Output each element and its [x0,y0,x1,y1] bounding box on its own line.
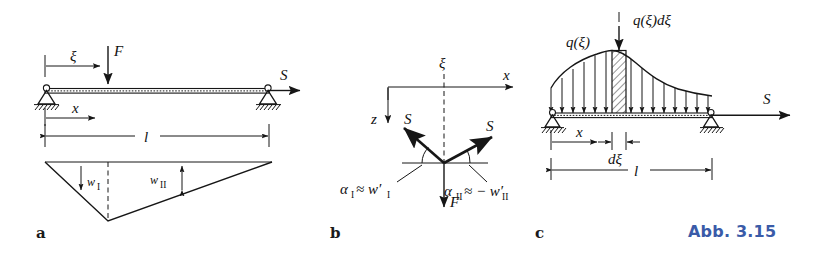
panel-letter-b: b [330,224,341,242]
panel-b-alpha-left-symbol: α [340,181,349,197]
panel-b-alpha-left-relation-subscript: I [387,190,390,200]
panel-b-alpha-left-subscript: I [351,190,354,200]
panel-b-label-axial-right: S [486,118,494,134]
panel-a-deflection-left-subscript: I [97,182,100,192]
panel-b-label-z: z [370,111,377,127]
panel-c-load-element-strip [612,51,626,114]
panel-b-label-alpha-left: α I ≈ w′ I [340,181,390,200]
panel-b-leader-left [397,165,422,182]
panel-a-label-deflection-right: w II [150,173,166,190]
panel-c-label-x: x [575,124,583,140]
panel-a-deflection-left-symbol: w [87,175,95,189]
panel-c-label-length: l [634,163,638,179]
panel-a-label-x: x [71,100,79,116]
panel-a-deflection-diagram [45,162,272,221]
panel-c-dxi-dimension [598,132,640,150]
panel-a-deflection-right-subscript: II [160,180,166,190]
panel-a-label-axial: S [280,67,288,83]
panel-a-drawing [34,46,300,221]
panel-letter-c: c [535,224,544,242]
panel-b-angle-arc-right [467,150,470,163]
panel-a-beam [45,89,269,94]
panel-c-load-arrows [551,52,708,114]
panel-a-deflection-right-symbol: w [150,173,158,187]
panel-b-x-axis [388,87,513,100]
panel-a-label-length: l [144,129,148,145]
panel-b-leader-right [469,165,487,182]
panel-c-label-dxi: dξ [608,151,623,167]
panel-a-length-dimension [45,124,269,147]
panel-b-axial-vector-left [404,128,444,163]
panel-c-x-axis-arrow [551,130,597,150]
figure-abb-3-15: ξ F S x l w I w II ξ x z S S F α I ≈ w′ … [0,0,820,267]
panel-c-label-load: q(ξ) [566,34,590,51]
panel-a-label-deflection-left: w I [87,175,100,192]
panel-b-alpha-right-symbol: α [444,183,453,199]
panel-c-beam [551,113,712,118]
panel-b-axial-vector-right [444,137,492,163]
panel-c-label-element-load: q(ξ)dξ [633,12,671,29]
panel-a-label-xi: ξ [70,48,77,64]
figure-caption: Abb. 3.15 [688,222,776,241]
panel-b-alpha-left-relation: ≈ w′ [356,181,382,197]
panel-b-label-axial-left: S [404,111,412,127]
panel-b-alpha-right-subscript: II [456,192,462,202]
panel-b-label-x: x [502,67,510,83]
panel-c-length-dimension [551,158,712,180]
panel-a-label-force: F [113,43,124,59]
panel-b-label-xi: ξ [439,55,446,71]
panel-a-x-axis-arrow [45,108,95,126]
panel-c-label-axial: S [763,91,771,107]
panel-b-alpha-right-relation-subscript: II [502,192,508,202]
panel-b-alpha-right-relation: ≈ − w′ [464,183,504,199]
panel-letter-a: a [36,224,46,242]
